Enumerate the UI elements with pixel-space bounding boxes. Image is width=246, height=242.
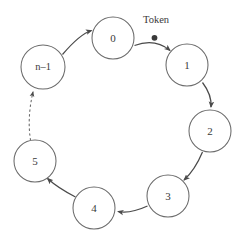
node-3[interactable]: 3 <box>147 175 189 217</box>
node-group: 0 1 2 3 4 5 <box>14 17 231 229</box>
token-ring-diagram: 0 1 2 3 4 5 <box>0 0 246 242</box>
node-2[interactable]: 2 <box>189 110 231 152</box>
node-n-1-label: n–1 <box>35 61 51 72</box>
node-0[interactable]: 0 <box>92 17 134 59</box>
edge-3-to-4 <box>118 206 148 212</box>
node-1-label: 1 <box>184 59 190 71</box>
token-label: Token <box>143 14 170 25</box>
node-2-label: 2 <box>207 125 213 137</box>
edge-1-to-2 <box>203 83 212 108</box>
node-3-label: 3 <box>165 190 171 202</box>
node-4-label: 4 <box>91 202 97 214</box>
node-5-label: 5 <box>32 155 38 167</box>
edge-2-to-3 <box>184 152 203 180</box>
node-4[interactable]: 4 <box>73 187 115 229</box>
edge-5-to-n-1-dashed <box>29 92 33 140</box>
node-n-1[interactable]: n–1 <box>21 45 65 89</box>
ring-canvas: 0 1 2 3 4 5 <box>0 0 246 242</box>
edge-4-to-5 <box>48 179 76 198</box>
edge-n-1-to-0 <box>63 31 92 55</box>
edge-0-to-1 <box>135 43 171 51</box>
node-1[interactable]: 1 <box>166 44 208 86</box>
node-5[interactable]: 5 <box>14 140 56 182</box>
node-0-label: 0 <box>110 32 116 44</box>
token-annotation: Token <box>143 14 170 40</box>
token-dot-icon <box>152 35 158 41</box>
